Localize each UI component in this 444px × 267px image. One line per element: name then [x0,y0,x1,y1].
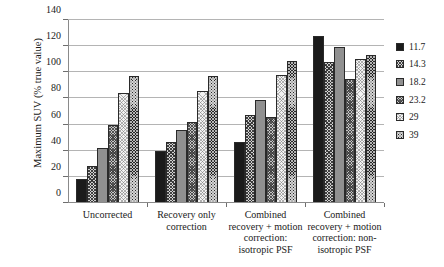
legend-item[interactable]: 23.2 [396,91,426,109]
x-axis-label-line: correction: non- [299,232,390,244]
legend: 11.714.318.223.22939 [396,38,426,144]
x-axis-label-line: isotropic PSF [220,244,311,256]
x-axis-label-line: correction [141,221,232,233]
legend-item[interactable]: 11.7 [396,38,426,56]
legend-swatch-icon [396,96,404,104]
x-axis-label-line: Recovery only [141,209,232,221]
x-axis-category-label: Uncorrected [62,209,153,221]
x-axis-label-line: recovery + motion [299,221,390,233]
chart-figure: Maximum SUV (% true value) 0204060801001… [0,0,444,267]
legend-label: 39 [409,130,419,140]
x-axis-label-line: isotropic PSF [299,244,390,256]
x-axis-separator [384,203,385,207]
x-axis-category-label: Recovery onlycorrection [141,209,232,232]
x-axis-separator [226,203,227,207]
y-axis-tick-label: 80 [51,82,61,93]
x-axis-category-label: Combinedrecovery + motioncorrection:isot… [220,209,311,255]
y-axis-tick-label: 40 [51,134,61,145]
legend-item[interactable]: 14.3 [396,56,426,74]
legend-swatch-icon [396,78,404,86]
y-axis-tick-label: 140 [46,4,61,15]
legend-item[interactable]: 29 [396,108,426,126]
legend-swatch-icon [396,60,404,68]
x-axis-label-line: correction: [220,232,311,244]
x-axis-label-line: Combined [299,209,390,221]
x-axis-label-line: Uncorrected [62,209,153,221]
legend-swatch-icon [396,113,404,121]
x-axis-label-line: recovery + motion [220,221,311,233]
legend-label: 14.3 [409,59,426,69]
x-axis-separator [147,203,148,207]
legend-label: 23.2 [409,95,426,105]
y-axis-tick-label: 20 [51,160,61,171]
legend-item[interactable]: 18.2 [396,73,426,91]
legend-label: 18.2 [409,77,426,87]
y-axis-tick-label: 100 [46,56,61,67]
legend-swatch-icon [396,43,404,51]
axis-lines [68,20,384,203]
legend-label: 29 [409,112,419,122]
legend-item[interactable]: 39 [396,126,426,144]
plot-area: 020406080100120140 [68,20,384,203]
y-axis-tick-label: 60 [51,108,61,119]
legend-swatch-icon [396,131,404,139]
x-axis-separator [305,203,306,207]
x-axis-label-line: Combined [220,209,311,221]
legend-label: 11.7 [409,42,425,52]
y-axis-tick-label: 120 [46,30,61,41]
y-axis-tick-label: 0 [56,187,61,198]
x-axis-category-label: Combinedrecovery + motioncorrection: non… [299,209,390,255]
y-axis-title: Maximum SUV (% true value) [28,8,48,198]
